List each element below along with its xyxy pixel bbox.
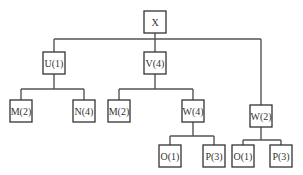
edge-w4-to-children <box>170 122 214 145</box>
node-label: W(4) <box>182 106 203 118</box>
tree-diagram: X U(1) V(4) M(2) N(4) M(2) W(4) W(2) O(1… <box>0 0 303 175</box>
node-label: O(1) <box>234 151 253 163</box>
node-o1-under-w2: O(1) <box>232 145 254 167</box>
node-p3-under-w4: P(3) <box>203 145 225 167</box>
node-label: M(2) <box>11 106 32 118</box>
edges <box>21 33 281 145</box>
node-n4: N(4) <box>73 100 95 122</box>
node-root-x: X <box>144 11 166 33</box>
node-label: V(4) <box>146 58 165 70</box>
node-w2: W(2) <box>250 105 272 127</box>
edge-u1-to-children <box>21 74 84 100</box>
node-m2-under-u: M(2) <box>10 100 32 122</box>
node-label: P(3) <box>272 151 289 163</box>
node-label: W(2) <box>250 111 271 123</box>
node-label: P(3) <box>205 151 222 163</box>
node-label: N(4) <box>75 106 94 118</box>
node-m2-under-v: M(2) <box>108 100 130 122</box>
edge-v4-to-children <box>119 74 193 100</box>
node-w4: W(4) <box>182 100 204 122</box>
edge-w2-to-children <box>243 127 281 145</box>
node-label: O(1) <box>161 151 180 163</box>
node-u1: U(1) <box>43 52 65 74</box>
node-label: U(1) <box>45 58 64 70</box>
node-label: X <box>151 17 159 28</box>
node-o1-under-w4: O(1) <box>159 145 181 167</box>
node-p3-under-w2: P(3) <box>270 145 292 167</box>
node-v4: V(4) <box>144 52 166 74</box>
node-label: M(2) <box>109 106 130 118</box>
